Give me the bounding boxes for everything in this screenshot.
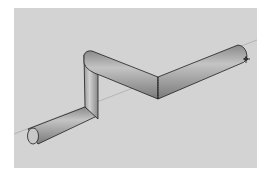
pipe-end-cap [28, 128, 39, 144]
pipe-segment-upper-right [158, 45, 247, 99]
pipe-model [14, 8, 257, 168]
model-viewport[interactable]: 3D model viewport [14, 8, 257, 168]
